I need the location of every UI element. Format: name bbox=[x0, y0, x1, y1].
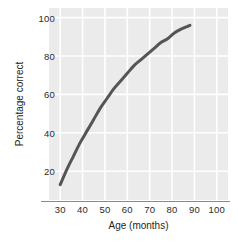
x-axis-line bbox=[41, 201, 230, 202]
plot-area bbox=[49, 8, 228, 200]
x-tick-40: 40 bbox=[77, 204, 88, 215]
x-tick-90: 90 bbox=[189, 204, 200, 215]
x-tick-70: 70 bbox=[144, 204, 155, 215]
x-tick-30: 30 bbox=[55, 204, 66, 215]
y-axis-title: Percentage correct bbox=[14, 8, 28, 200]
y-tick-40: 40 bbox=[44, 127, 55, 138]
y-tick-100: 100 bbox=[39, 12, 55, 23]
x-tick-60: 60 bbox=[122, 204, 133, 215]
x-axis-title: Age (months) bbox=[49, 220, 228, 231]
chart-figure: 30405060708090100 20406080100 Age (month… bbox=[0, 0, 238, 242]
y-tick-20: 20 bbox=[44, 166, 55, 177]
x-tick-50: 50 bbox=[99, 204, 110, 215]
y-tick-80: 80 bbox=[44, 51, 55, 62]
x-tick-100: 100 bbox=[209, 204, 225, 215]
x-tick-80: 80 bbox=[167, 204, 178, 215]
data-series-line bbox=[49, 8, 228, 200]
y-tick-60: 60 bbox=[44, 89, 55, 100]
